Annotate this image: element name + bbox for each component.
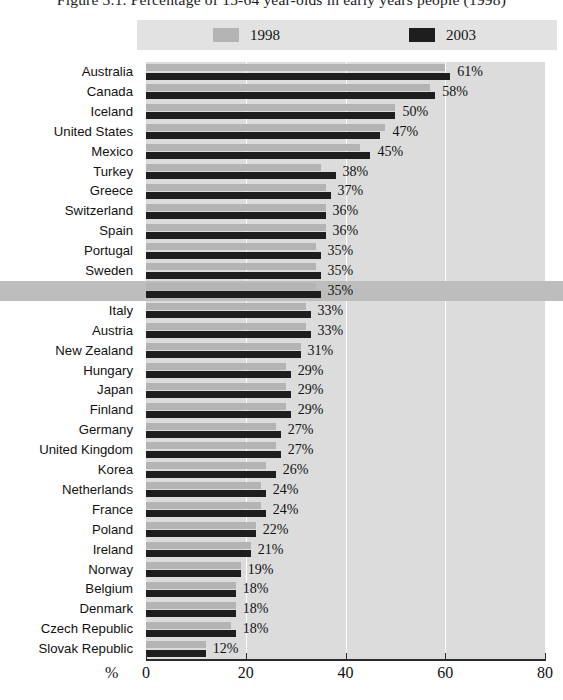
- axis-tick: [445, 653, 446, 660]
- bar-row: 21%: [146, 540, 545, 561]
- category-label: Ireland: [0, 540, 140, 561]
- legend-item-2003: 2003: [409, 27, 476, 44]
- category-label: Korea: [0, 460, 140, 481]
- chart-legend: 1998 2003: [137, 20, 557, 50]
- bar-row: 35%: [146, 281, 545, 302]
- bar-value-label: 35%: [328, 263, 354, 279]
- bar-1998: [146, 224, 326, 231]
- bar-2003: [146, 272, 321, 279]
- bar-1998: [146, 522, 256, 529]
- bar-1998: [146, 104, 395, 111]
- legend-item-1998: 1998: [213, 27, 280, 44]
- bar-row: 27%: [146, 440, 545, 461]
- bar-2003: [146, 570, 241, 577]
- bar-row: 22%: [146, 520, 545, 541]
- bar-1998: [146, 343, 301, 350]
- bar-2003: [146, 471, 276, 478]
- bar-1998: [146, 562, 241, 569]
- bar-row: 18%: [146, 619, 545, 640]
- bar-row: 36%: [146, 201, 545, 222]
- bar-value-label: 24%: [273, 482, 299, 498]
- legend-label-1998: 1998: [250, 27, 280, 44]
- axis-tick: [545, 653, 546, 660]
- bar-row: 29%: [146, 400, 545, 421]
- category-label: Austria: [0, 321, 140, 342]
- bar-2003: [146, 411, 291, 418]
- bar-1998: [146, 263, 316, 270]
- category-label: Poland: [0, 520, 140, 541]
- bar-value-label: 33%: [318, 303, 344, 319]
- bar-value-label: 29%: [298, 402, 324, 418]
- bar-1998: [146, 442, 276, 449]
- axis-tick: [246, 653, 247, 660]
- bar-value-label: 19%: [248, 562, 274, 578]
- category-label: Germany: [0, 420, 140, 441]
- bar-1998: [146, 582, 236, 589]
- bar-value-label: 36%: [333, 203, 359, 219]
- bar-row: 33%: [146, 301, 545, 322]
- category-label: France: [0, 500, 140, 521]
- bar-value-label: 29%: [298, 382, 324, 398]
- legend-label-2003: 2003: [446, 27, 476, 44]
- bar-1998: [146, 542, 251, 549]
- bar-row: 18%: [146, 599, 545, 620]
- bar-2003: [146, 371, 291, 378]
- bar-2003: [146, 391, 291, 398]
- bar-2003: [146, 431, 281, 438]
- bar-value-label: 27%: [288, 422, 314, 438]
- bar-value-label: 45%: [377, 144, 403, 160]
- category-label: Iceland: [0, 102, 140, 123]
- category-label: United Kingdom: [0, 440, 140, 461]
- bar-value-label: 33%: [318, 323, 344, 339]
- axis-tick-label: 80: [537, 664, 553, 682]
- bar-1998: [146, 323, 306, 330]
- bar-value-label: 27%: [288, 442, 314, 458]
- page-title: Figure 3.1. Percentage of 15-64 year-old…: [0, 0, 563, 9]
- bar-value-label: 21%: [258, 542, 284, 558]
- axis-tick: [346, 653, 347, 660]
- category-label: United States: [0, 122, 140, 143]
- bar-row: 18%: [146, 579, 545, 600]
- bar-1998: [146, 363, 286, 370]
- bar-1998: [146, 64, 445, 71]
- gridline: [545, 62, 546, 659]
- axis-tick: [146, 653, 147, 660]
- category-label: Norway: [0, 560, 140, 581]
- bar-1998: [146, 641, 206, 648]
- bar-value-label: 36%: [333, 223, 359, 239]
- category-label: Sweden: [0, 261, 140, 282]
- bar-value-label: 35%: [328, 283, 354, 299]
- bar-value-label: 12%: [213, 641, 239, 657]
- bar-1998: [146, 303, 306, 310]
- bar-row: 31%: [146, 341, 545, 362]
- category-label: Australia: [0, 62, 140, 83]
- axis-unit-label: %: [105, 664, 118, 682]
- bar-value-label: 31%: [308, 343, 334, 359]
- bar-1998: [146, 283, 316, 290]
- axis-tick-label: 20: [238, 664, 254, 682]
- category-label: Greece: [0, 181, 140, 202]
- bar-2003: [146, 550, 251, 557]
- bar-1998: [146, 383, 286, 390]
- category-label: Denmark: [0, 599, 140, 620]
- legend-swatch-1998-icon: [213, 28, 239, 42]
- bar-row: 29%: [146, 361, 545, 382]
- bar-value-label: 47%: [392, 124, 418, 140]
- bar-value-label: 35%: [328, 243, 354, 259]
- category-label: Japan: [0, 380, 140, 401]
- category-label: Turkey: [0, 162, 140, 183]
- bar-row: 58%: [146, 82, 545, 103]
- bar-row: 38%: [146, 162, 545, 183]
- bar-2003: [146, 132, 380, 139]
- bar-2003: [146, 73, 450, 80]
- bar-1998: [146, 403, 286, 410]
- bar-value-label: 58%: [442, 84, 468, 100]
- axis-tick-label: 0: [142, 664, 150, 682]
- bar-2003: [146, 510, 266, 517]
- bar-value-label: 18%: [243, 601, 269, 617]
- bar-2003: [146, 590, 236, 597]
- bar-1998: [146, 622, 231, 629]
- bar-1998: [146, 84, 430, 91]
- category-label: New Zealand: [0, 341, 140, 362]
- bar-2003: [146, 311, 311, 318]
